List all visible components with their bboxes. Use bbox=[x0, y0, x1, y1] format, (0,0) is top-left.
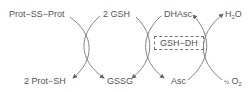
label-2-gsh: 2 GSH bbox=[103, 9, 130, 19]
o2-sub: 2 bbox=[239, 81, 242, 87]
label-asc: Asc bbox=[171, 76, 186, 86]
label-dhasc: DHAsc bbox=[164, 9, 192, 19]
label-gssg: GSSG bbox=[107, 76, 133, 86]
h2o-o: O bbox=[235, 9, 242, 19]
label-prot-ss-prot: Prot−SS−Prot bbox=[9, 9, 65, 19]
label-2-prot-sh: 2 Prot−SH bbox=[24, 76, 66, 86]
arrow-gsh-to-gssg bbox=[84, 16, 104, 78]
arrow-protss-to-protsh bbox=[70, 17, 89, 78]
enzyme-label: GSH−DH bbox=[155, 38, 203, 48]
o2-o: O bbox=[232, 76, 239, 86]
o2-fraction: ½ bbox=[224, 79, 229, 85]
redox-cycle-diagram: Prot−SS−Prot 2 GSH DHAsc H2O 2 Prot−SH G… bbox=[0, 0, 249, 92]
label-h2o: H2O bbox=[225, 9, 242, 22]
label-half-o2: ½ O2 bbox=[224, 76, 242, 89]
arrow-gssg-to-gsh bbox=[132, 17, 150, 78]
enzyme-box-gsh-dh: GSH−DH bbox=[154, 36, 204, 50]
